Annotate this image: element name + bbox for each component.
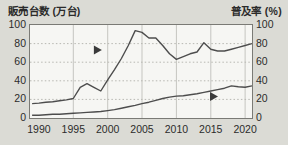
x-axis-label: 1990: [22, 123, 56, 136]
x-axis-label: 2010: [159, 123, 193, 136]
y-axis-label-left: 60: [0, 55, 26, 68]
right-axis-title: 普及率 (%): [231, 3, 282, 18]
arrow-right-icon: [94, 46, 102, 55]
line-chart: 販売台数 (万台) 普及率 (%) 0204060801000204060801…: [0, 0, 288, 145]
left-axis-title: 販売台数 (万台): [8, 3, 81, 18]
y-axis-label-left: 100: [0, 18, 26, 31]
y-axis-label-left: 40: [0, 74, 26, 87]
y-axis-label-right: 40: [256, 74, 286, 87]
y-axis-label-right: 100: [256, 18, 286, 31]
x-axis-label: 1995: [56, 123, 90, 136]
plot-svg: [30, 25, 252, 118]
x-axis-label: 2015: [194, 123, 228, 136]
y-axis-label-right: 20: [256, 92, 286, 105]
x-axis-label: 2000: [91, 123, 125, 136]
y-axis-label-right: 60: [256, 55, 286, 68]
x-axis-label: 2005: [125, 123, 159, 136]
x-axis-label: 2020: [228, 123, 262, 136]
y-axis-label-right: 80: [256, 37, 286, 50]
y-axis-label-left: 20: [0, 92, 26, 105]
y-axis-label-left: 80: [0, 37, 26, 50]
arrow-right-icon: [210, 92, 218, 101]
plot-area: [29, 24, 253, 119]
